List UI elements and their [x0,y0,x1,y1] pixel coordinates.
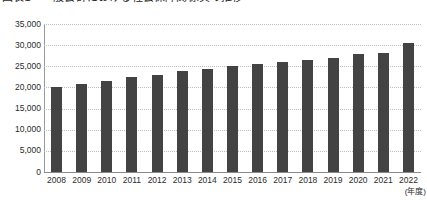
bar [403,43,414,172]
y-axis-tick-label: 15,000 [1,104,41,113]
y-axis-tick-label: 25,000 [1,62,41,71]
y-axis-tick-label: 30,000 [1,41,41,50]
bar [126,77,137,172]
y-axis-tick-label: 20,000 [1,83,41,92]
bar [378,53,389,172]
bar [328,58,339,172]
y-axis-tick-label: 10,000 [1,125,41,134]
bar [101,81,112,172]
bar [51,87,62,172]
y-axis-tick-label: 5,000 [1,146,41,155]
page-title: 図表1 一般会計における社会保障関係費の推移 [2,0,244,4]
y-axis-tick-label: 35,000 [1,20,41,29]
gridline [44,45,421,46]
x-axis-tick-labels: 2008200920102011201220132014201520162017… [44,175,421,189]
y-axis-tick-label: 0 [1,168,41,177]
bar [302,60,313,172]
x-axis-tick-label: 2022 [393,175,423,186]
chart-title-strip: 図表1 一般会計における社会保障関係費の推移 [0,0,427,7]
bar [353,54,364,172]
bar [202,69,213,172]
gridline [44,24,421,25]
bar [227,66,238,172]
y-axis-tick-labels: 05,00010,00015,00020,00025,00030,00035,0… [0,24,41,172]
plot-area [44,24,421,172]
bar-chart: 05,00010,00015,00020,00025,00030,00035,0… [0,7,427,204]
gridline [44,172,421,173]
bar [76,84,87,172]
x-axis-unit-label: (年度) [405,187,426,197]
bar [152,75,163,172]
bar [277,62,288,172]
bar [177,71,188,172]
bar [252,64,263,172]
